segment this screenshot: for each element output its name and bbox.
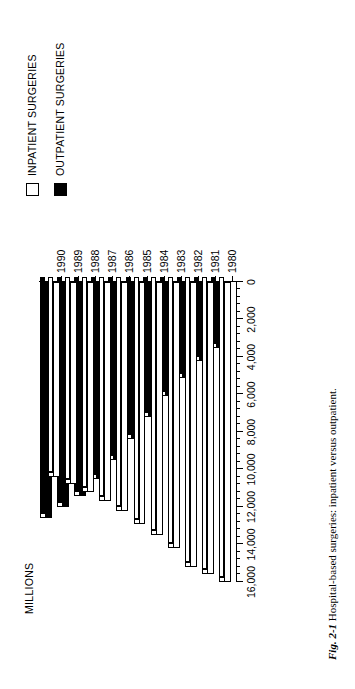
category-axis-tick (181, 276, 182, 281)
value-axis-minor-tick (236, 401, 240, 402)
value-axis-minor-tick (236, 529, 240, 530)
category-axis-tick (164, 276, 165, 281)
value-axis-minor-tick (236, 491, 240, 492)
category-axis-tick (215, 276, 216, 281)
bar-front-face (139, 282, 146, 524)
value-axis-minor-tick (236, 439, 240, 440)
value-axis-minor-tick (236, 484, 240, 485)
figure-caption: Fig. 2-1 Hospital-based surgeries: inpat… (326, 330, 344, 660)
value-axis-minor-tick (236, 461, 240, 462)
bar-front-face (173, 282, 180, 548)
value-axis-minor-tick (236, 566, 240, 567)
bar-front-face (224, 282, 231, 582)
value-axis-minor-tick (236, 574, 240, 575)
value-axis-tick (236, 281, 243, 282)
category-axis-label: 1980 (226, 250, 238, 273)
bar-inpatient (70, 282, 77, 485)
category-axis-label: 1985 (141, 250, 153, 273)
plot-area: 02,0004,0006,0008,00010,00012,00014,0001… (40, 194, 256, 614)
bar-front-face (207, 282, 214, 575)
category-axis-label: 1988 (89, 250, 101, 273)
category-axis-tick (232, 276, 233, 281)
value-axis-label: 12,000 (245, 491, 257, 523)
value-axis-label: 2,000 (245, 306, 257, 332)
bar-inpatient (139, 282, 146, 524)
value-axis-minor-tick (236, 296, 240, 297)
value-axis-minor-tick (236, 304, 240, 305)
value-axis (236, 282, 237, 582)
value-axis-tick (236, 469, 243, 470)
value-axis-minor-tick (236, 289, 240, 290)
value-axis-minor-tick (236, 364, 240, 365)
legend-item-outpatient: OUTPATIENT SURGERIES (46, 16, 74, 196)
bar-inpatient (156, 282, 163, 535)
category-axis-tick (129, 276, 130, 281)
category-axis-tick (112, 276, 113, 281)
category-axis-label: 1986 (123, 250, 135, 273)
value-axis-minor-tick (236, 379, 240, 380)
value-axis-label: 0 (245, 279, 257, 285)
bar-front-face (104, 282, 111, 501)
bar-inpatient (173, 282, 180, 548)
category-axis-tick (198, 276, 199, 281)
value-axis-minor-tick (236, 311, 240, 312)
value-axis-tick (236, 581, 243, 582)
figure-caption-text: Hospital-based surgeries: inpatient vers… (326, 388, 338, 621)
legend-label-outpatient: OUTPATIENT SURGERIES (54, 42, 66, 176)
legend-item-inpatient: INPATIENT SURGERIES (18, 16, 46, 196)
bar-front-face (190, 282, 197, 567)
value-axis-minor-tick (236, 446, 240, 447)
value-axis-minor-tick (236, 521, 240, 522)
figure-page: INPATIENT SURGERIES OUTPATIENT SURGERIES… (0, 0, 355, 689)
value-axis-minor-tick (236, 559, 240, 560)
category-axis-label: 1984 (158, 250, 170, 273)
bar-inpatient (224, 282, 231, 582)
category-axis-label: 1981 (209, 250, 221, 273)
figure-caption-label: Fig. 2-1 (326, 624, 338, 660)
category-axis-label: 1989 (72, 250, 84, 273)
bar-front-face (70, 282, 77, 485)
value-axis-minor-tick (236, 349, 240, 350)
value-axis-tick (236, 506, 243, 507)
value-axis-minor-tick (236, 551, 240, 552)
value-axis-minor-tick (236, 386, 240, 387)
category-axis-label: 1983 (175, 250, 187, 273)
bar-inpatient (87, 282, 94, 492)
category-axis-tick (147, 276, 148, 281)
value-axis-minor-tick (236, 536, 240, 537)
chart-legend: INPATIENT SURGERIES OUTPATIENT SURGERIES (18, 16, 88, 196)
category-axis-label: 1990 (55, 250, 67, 273)
bar-inpatient (190, 282, 197, 567)
value-axis-minor-tick (236, 334, 240, 335)
value-axis-tick (236, 356, 243, 357)
bar-inpatient (207, 282, 214, 575)
value-axis-minor-tick (236, 424, 240, 425)
bar-front-face (87, 282, 94, 492)
value-axis-minor-tick (236, 476, 240, 477)
value-axis-label: 16,000 (245, 566, 257, 598)
value-axis-label: 8,000 (245, 419, 257, 445)
value-axis-tick (236, 544, 243, 545)
value-axis-label: 14,000 (245, 528, 257, 560)
value-axis-minor-tick (236, 499, 240, 500)
category-axis-label: 1987 (106, 250, 118, 273)
bar-front-face (156, 282, 163, 535)
value-axis-label: 6,000 (245, 381, 257, 407)
value-axis-tick (236, 431, 243, 432)
value-axis-minor-tick (236, 371, 240, 372)
category-axis-tick (61, 276, 62, 281)
value-axis-minor-tick (236, 326, 240, 327)
bar-front-face (121, 282, 128, 511)
value-axis-label: 10,000 (245, 453, 257, 485)
bar-inpatient (104, 282, 111, 501)
legend-label-inpatient: INPATIENT SURGERIES (26, 54, 38, 176)
value-axis-minor-tick (236, 514, 240, 515)
bar-inpatient (53, 282, 60, 477)
value-axis-minor-tick (236, 416, 240, 417)
value-axis-tick (236, 319, 243, 320)
value-axis-label: 4,000 (245, 344, 257, 370)
category-axis-label: 1982 (192, 250, 204, 273)
value-axis-minor-tick (236, 409, 240, 410)
bar-front-face (53, 282, 60, 477)
value-axis-title: MILLIONS (23, 563, 35, 614)
